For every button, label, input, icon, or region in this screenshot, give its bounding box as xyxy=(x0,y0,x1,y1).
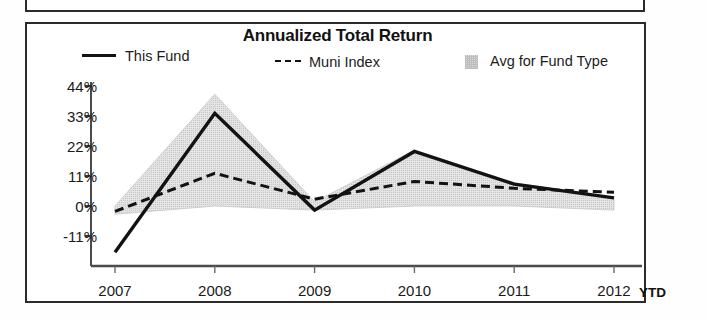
x-axis-tick-2011: 2011 xyxy=(498,282,530,299)
x-axis-tick-2009: 2009 xyxy=(298,282,331,299)
adjacent-panel-fragment xyxy=(25,0,645,12)
x-axis-tick-2007: 2007 xyxy=(98,282,131,299)
x-axis-tick-labels: 200720082009201020112012YTD xyxy=(27,24,648,305)
chart-plot-area: 44%33%22%11%0%-11% 200720082009201020112… xyxy=(27,24,648,305)
x-axis-ytd-label: YTD xyxy=(639,285,666,300)
x-axis-tick-2010: 2010 xyxy=(398,282,431,299)
x-axis-tick-2012: 2012 xyxy=(597,282,630,299)
x-axis-tick-2008: 2008 xyxy=(198,282,231,299)
screenshot-root: Annualized Total Return This Fund Muni I… xyxy=(0,0,709,319)
annualized-total-return-chart-panel: Annualized Total Return This Fund Muni I… xyxy=(25,22,646,303)
